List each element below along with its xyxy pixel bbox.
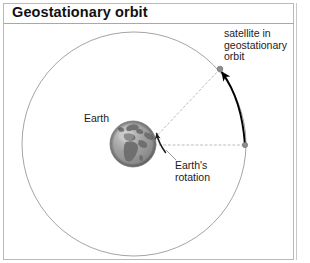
earth-globe bbox=[110, 121, 156, 167]
figure-panel: Geostationary orbit bbox=[0, 0, 310, 263]
orbit-position-marker bbox=[242, 142, 247, 147]
dashed-line-to-satellite bbox=[152, 71, 218, 141]
label-satellite: satellite in geostationary orbit bbox=[224, 28, 287, 63]
label-earth-rotation: Earth's rotation bbox=[175, 160, 210, 183]
orbital-motion-arc bbox=[222, 72, 245, 144]
earth-rotation-arrow bbox=[157, 134, 166, 153]
label-earth: Earth bbox=[84, 113, 109, 125]
satellite-marker bbox=[217, 66, 223, 72]
